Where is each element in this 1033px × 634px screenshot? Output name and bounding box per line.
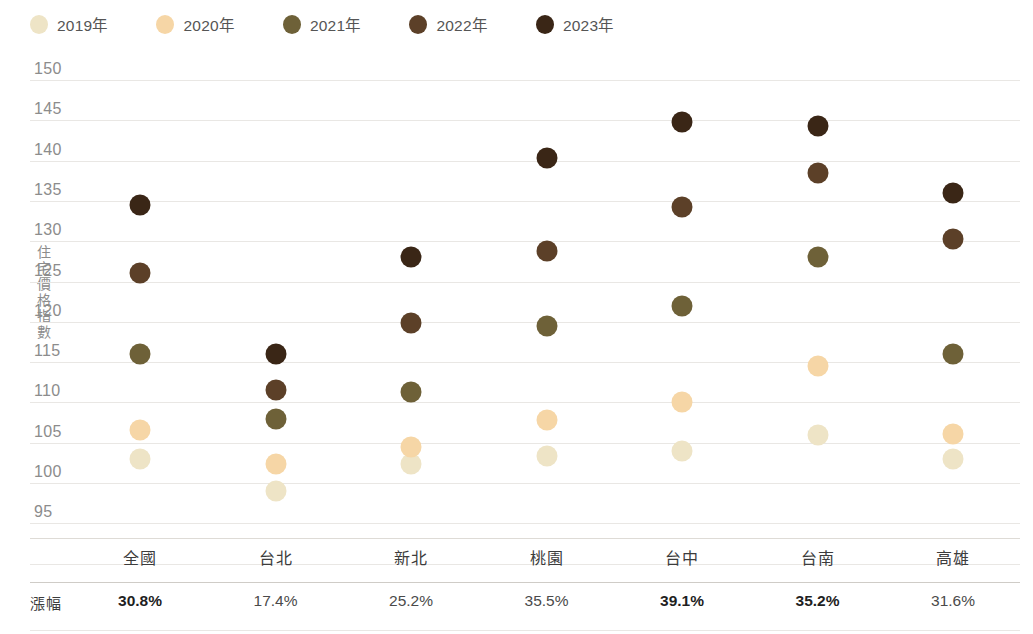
growth-rate-row: 漲幅 30.8%17.4%25.2%35.5%39.1%35.2%31.6% <box>30 592 1020 622</box>
data-point[interactable] <box>807 424 828 445</box>
data-point[interactable] <box>536 240 557 261</box>
data-point[interactable] <box>807 162 828 183</box>
growth-rate-value: 35.2% <box>796 592 840 610</box>
data-point[interactable] <box>943 448 964 469</box>
legend-item[interactable]: 2020年 <box>156 13 234 35</box>
data-point[interactable] <box>943 344 964 365</box>
data-point[interactable] <box>401 247 422 268</box>
growth-rate-row-header: 漲幅 <box>30 592 62 613</box>
data-point[interactable] <box>672 295 693 316</box>
data-point[interactable] <box>943 423 964 444</box>
x-axis-category-label: 台中 <box>665 545 699 569</box>
legend-dot-2022 <box>409 15 427 34</box>
legend-item[interactable]: 2022年 <box>409 13 487 35</box>
legend-item-label: 2019年 <box>57 13 108 35</box>
data-point[interactable] <box>536 148 557 169</box>
data-points-layer <box>30 60 1020 538</box>
data-point[interactable] <box>130 194 151 215</box>
legend-dot-2019 <box>30 15 48 34</box>
legend-item[interactable]: 2023年 <box>536 13 614 35</box>
data-point[interactable] <box>943 228 964 249</box>
chart-legend: 2019年2020年2021年2022年2023年 <box>30 10 662 38</box>
data-point[interactable] <box>807 247 828 268</box>
x-axis-line <box>30 538 1020 539</box>
x-axis-category-label: 新北 <box>394 545 428 569</box>
legend-item-label: 2023年 <box>563 13 614 35</box>
growth-rate-value: 17.4% <box>254 592 298 610</box>
data-point[interactable] <box>265 408 286 429</box>
legend-dot-2020 <box>156 15 174 34</box>
data-point[interactable] <box>536 446 557 467</box>
data-point[interactable] <box>265 454 286 475</box>
legend-item-label: 2022年 <box>436 13 487 35</box>
data-point[interactable] <box>130 448 151 469</box>
growth-rate-value: 39.1% <box>660 592 704 610</box>
growth-rate-value: 35.5% <box>525 592 569 610</box>
data-point[interactable] <box>130 263 151 284</box>
table-divider-line <box>30 582 1020 583</box>
category-labels-row: 全國台北新北桃園台中台南高雄 <box>30 545 1020 573</box>
x-axis-category-label: 桃園 <box>530 545 564 569</box>
legend-item[interactable]: 2021年 <box>283 13 361 35</box>
plot-area: 住宅價格指數 150145140135130125120115110105100… <box>30 60 1020 538</box>
data-point[interactable] <box>401 381 422 402</box>
data-point[interactable] <box>672 391 693 412</box>
x-axis-category-label: 台北 <box>259 545 293 569</box>
legend-dot-2021 <box>283 15 301 34</box>
x-axis-category-label: 全國 <box>123 545 157 569</box>
data-point[interactable] <box>943 182 964 203</box>
data-point[interactable] <box>265 344 286 365</box>
data-point[interactable] <box>807 356 828 377</box>
legend-item-label: 2020年 <box>183 13 234 35</box>
legend-dot-2023 <box>536 15 554 34</box>
growth-rate-value: 31.6% <box>931 592 975 610</box>
data-point[interactable] <box>265 481 286 502</box>
legend-item[interactable]: 2019年 <box>30 13 108 35</box>
legend-item-label: 2021年 <box>310 13 361 35</box>
data-point[interactable] <box>672 111 693 132</box>
data-point[interactable] <box>130 419 151 440</box>
data-point[interactable] <box>672 440 693 461</box>
table-bottom-line <box>30 630 1020 631</box>
x-axis-category-label: 高雄 <box>936 545 970 569</box>
data-point[interactable] <box>536 410 557 431</box>
data-point[interactable] <box>672 196 693 217</box>
growth-rate-value: 25.2% <box>389 592 433 610</box>
data-point[interactable] <box>265 379 286 400</box>
data-point[interactable] <box>130 344 151 365</box>
x-axis-category-label: 台南 <box>801 545 835 569</box>
data-point[interactable] <box>401 436 422 457</box>
growth-rate-value: 30.8% <box>118 592 162 610</box>
data-point[interactable] <box>536 315 557 336</box>
data-point[interactable] <box>807 115 828 136</box>
data-point[interactable] <box>401 313 422 334</box>
housing-price-index-chart: 2019年2020年2021年2022年2023年 住宅價格指數 1501451… <box>0 0 1033 634</box>
